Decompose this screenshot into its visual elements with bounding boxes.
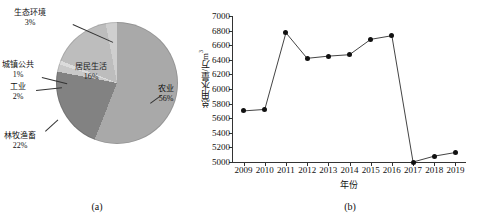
- data-point: [326, 54, 331, 59]
- pie-label-ecology-pct: 3%: [14, 18, 46, 28]
- pie-label-industry-name: 工业: [10, 82, 26, 91]
- x-axis-tick-label: 2012: [298, 165, 316, 175]
- y-axis-label-exponent: 3: [198, 50, 204, 53]
- pie-label-residential-name: 居民生活: [75, 62, 107, 71]
- y-axis-label-text: 总用水量/万m: [200, 53, 210, 108]
- pie-slices: [56, 22, 178, 144]
- pie-label-residential: 居民生活 16%: [75, 62, 107, 82]
- x-axis-tick-label: 2019: [446, 165, 464, 175]
- x-axis-tick-label: 2018: [425, 165, 443, 175]
- y-axis-tick-label: 5000: [212, 157, 230, 167]
- panel-a-caption: (a): [77, 201, 117, 212]
- pie-label-urban-public-pct: 1%: [2, 70, 34, 80]
- y-axis-tick-label: 6800: [212, 26, 230, 36]
- series-line: [233, 16, 492, 166]
- y-axis-tick-label: 5200: [212, 142, 230, 152]
- x-axis-tick-label: 2016: [383, 165, 401, 175]
- y-axis-tick-label: 6200: [212, 69, 230, 79]
- plot-area: 5000520054005600580060006200640066006800…: [232, 16, 466, 163]
- pie-label-forestry-livestock: 林牧渔畜 22%: [4, 131, 36, 151]
- x-axis-tick-label: 2009: [235, 165, 253, 175]
- y-axis-tick-label: 6600: [212, 40, 230, 50]
- x-axis-tick-label: 2014: [341, 165, 359, 175]
- pie-label-forestry-livestock-pct: 22%: [4, 141, 36, 151]
- y-axis-tick-label: 6000: [212, 84, 230, 94]
- y-axis-tick-label: 5800: [212, 99, 230, 109]
- x-axis-tick-label: 2011: [277, 165, 295, 175]
- panel-pie-chart: 生态环境 3% 城镇公共 1% 工业 2% 居民生活 16% 农业 56% 林牧: [0, 0, 200, 214]
- y-axis-label: 总用水量/万m3: [198, 50, 211, 108]
- x-axis-tick-label: 2013: [319, 165, 337, 175]
- y-axis-tick-label: 5400: [212, 128, 230, 138]
- data-point: [305, 56, 310, 61]
- pie-label-industry: 工业 2%: [10, 82, 26, 102]
- plot-inner: 5000520054005600580060006200640066006800…: [233, 16, 466, 162]
- x-axis-label: 年份: [232, 178, 466, 191]
- y-axis-tick-label: 7000: [212, 11, 230, 21]
- panel-b-caption: (b): [330, 201, 370, 212]
- data-point: [432, 154, 437, 159]
- pie-label-urban-public-name: 城镇公共: [2, 60, 34, 69]
- pie-label-urban-public: 城镇公共 1%: [2, 60, 34, 80]
- pie-label-agriculture-name: 农业: [158, 84, 174, 93]
- pie-label-ecology-name: 生态环境: [14, 8, 46, 17]
- panel-line-chart: 总用水量/万m3 5000520054005600580060006200640…: [200, 0, 492, 214]
- pie-label-ecology: 生态环境 3%: [14, 8, 46, 28]
- pie-chart: [56, 22, 178, 144]
- y-axis-tick-label: 6400: [212, 55, 230, 65]
- figure-container: 生态环境 3% 城镇公共 1% 工业 2% 居民生活 16% 农业 56% 林牧: [0, 0, 492, 214]
- y-axis-tick-label: 5600: [212, 113, 230, 123]
- data-point: [453, 150, 458, 155]
- pie-label-residential-pct: 16%: [75, 72, 107, 82]
- pie-label-industry-pct: 2%: [10, 92, 26, 102]
- pie-label-forestry-livestock-name: 林牧渔畜: [4, 131, 36, 140]
- x-axis-tick-label: 2015: [362, 165, 380, 175]
- data-point: [411, 160, 416, 165]
- x-axis-tick-label: 2010: [256, 165, 274, 175]
- x-axis-tick-label: 2017: [404, 165, 422, 175]
